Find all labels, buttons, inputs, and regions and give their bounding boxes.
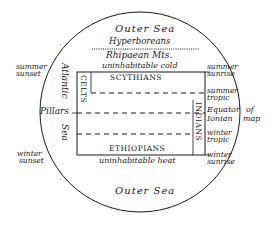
heat-label: uninhabitable heat [99,157,175,165]
winter-tropic-label-2: tropic [207,136,230,144]
equator-label-1: Equator [207,106,240,114]
outer-sea-top-label: Outer Sea [115,24,175,34]
rhipaean-label: Rhipaean Mts. [106,51,172,60]
celts-label: CELTS [79,75,87,103]
winter-sunrise-label-2: sunrise [207,158,235,166]
summer-sunset-label-2: sunset [16,70,41,78]
cold-label: uninhabitable cold [102,62,178,70]
ethiopians-label: ETHIOPIANS [109,145,165,153]
atlantic-label: Atlantic [60,63,69,99]
indians-label: INDIANS [194,102,202,141]
equator-map-label: map [243,115,260,123]
sea-label: Sea [60,124,69,141]
winter-sunset-label-2: sunset [19,157,44,165]
hyperboreans-label: Hyperboreans [109,37,170,46]
outer-sea-bottom-label: Outer Sea [115,186,175,196]
equator-label-2: Ionian [207,115,233,123]
equator-of-label: of [246,106,254,114]
summer-tropic-label-2: tropic [207,94,230,102]
pillars-label: Pillars [40,107,69,116]
scythians-label: SCYTHIANS [110,74,162,82]
summer-sunrise-label-2: sunrise [207,70,235,78]
